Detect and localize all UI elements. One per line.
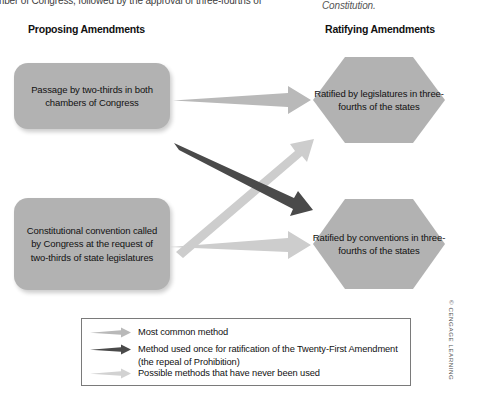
proposing-box-convention-label: Constitutional convention called by Cong… [14,224,170,263]
proposing-box-convention: Constitutional convention called by Cong… [14,198,170,290]
legend-item-label: Method used once for ratification of the… [138,343,398,368]
arrow-convention-to-conventions [170,231,311,259]
legend-label-line1: Method used once for ratification of the… [138,344,398,354]
legend-arrow-icon [90,368,132,379]
proposing-amendments-heading: Proposing Amendments [28,23,145,35]
legend-item-most-common: Most common method [90,326,228,339]
copyright-notice: © CENGAGE LEARNING [448,300,455,400]
constitution-text-fragment: Constitution. [322,0,376,11]
arrow-passage-to-legislatures [173,86,311,114]
ratifying-hex-conventions: Ratified by conventions in three-fourths… [312,198,446,290]
arrow-convention-to-legislatures [176,139,314,258]
ratifying-amendments-heading: Ratifying Amendments [325,23,435,35]
legend-arrow-icon [90,327,132,338]
legend-arrow-icon [90,344,132,355]
legend-item-label: Possible methods that have never been us… [138,367,320,380]
ratifying-hex-legislatures: Ratified by legislatures in three-fourth… [312,56,446,144]
legend-item-never-used: Possible methods that have never been us… [90,367,320,380]
proposing-box-passage: Passage by two-thirds in both chambers o… [14,63,170,129]
legend-item-label: Most common method [138,326,228,339]
amendment-process-figure: mber of Congress, followed by the approv… [0,0,478,404]
legend-label-line1: Possible methods that have never been us… [138,368,320,378]
body-text-fragment: mber of Congress, followed by the approv… [0,0,326,6]
legend-item-used-once: Method used once for ratification of the… [90,343,398,368]
legend: Most common method Method used once for … [81,318,411,386]
legend-label-line1: Most common method [138,327,228,337]
proposing-box-passage-label: Passage by two-thirds in both chambers o… [14,83,170,109]
arrow-passage-to-conventions [174,143,313,216]
